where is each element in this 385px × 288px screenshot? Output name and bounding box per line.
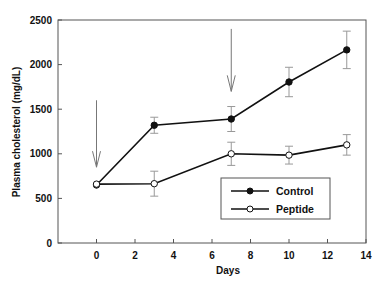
data-point [151,122,157,128]
x-tick-label: 6 [209,250,215,261]
y-tick-label: 1000 [30,148,53,159]
x-tick-label: 4 [171,250,177,261]
data-point [93,181,99,187]
data-point [228,116,234,122]
y-tick-label: 2000 [30,59,53,70]
data-point [344,142,350,148]
x-tick-label: 2 [132,250,138,261]
x-tick-label: 12 [322,250,334,261]
series-layer [93,31,350,196]
y-axis-title: Plasma cholesterol (mg/dL) [11,67,22,198]
chart: 0500100015002000250002468101214 Control … [0,0,385,288]
x-tick-label: 8 [248,250,254,261]
data-point [344,47,350,53]
series-control [93,31,350,188]
x-tick-label: 0 [94,250,100,261]
data-point [286,152,292,158]
data-point [228,151,234,157]
data-point [151,180,157,186]
x-tick-label: 14 [360,250,372,261]
legend-control-label: Control [276,185,313,197]
y-tick-label: 0 [46,238,52,249]
y-tick-label: 2500 [30,15,53,26]
x-tick-label: 10 [283,250,295,261]
axes: 0500100015002000250002468101214 [30,15,372,262]
y-tick-label: 500 [35,193,52,204]
data-point [286,79,292,85]
annotations [93,29,236,167]
y-tick-label: 1500 [30,104,53,115]
legend: Control Peptide [221,178,330,219]
x-axis-title: Days [216,265,240,276]
legend-control-marker [247,188,253,194]
legend-peptide-marker [247,206,253,212]
legend-peptide-label: Peptide [276,203,314,215]
series-line [97,50,347,185]
